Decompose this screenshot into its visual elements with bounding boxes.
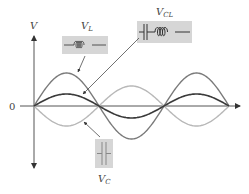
vcl-label: VCL bbox=[156, 6, 174, 19]
vl-pointer-arrow bbox=[78, 56, 85, 72]
capacitor-box bbox=[95, 139, 113, 168]
vc-pointer-arrow bbox=[84, 122, 100, 137]
inductor-box bbox=[62, 36, 108, 54]
zero-label: 0 bbox=[9, 101, 15, 112]
y-axis-label: V bbox=[30, 20, 39, 31]
reactive-voltage-diagram: V 0 VL VCL bbox=[0, 0, 249, 194]
axes: V 0 bbox=[9, 20, 240, 168]
vl-label: VL bbox=[81, 20, 93, 33]
capacitor-inductor-box bbox=[137, 21, 192, 43]
vc-label: VC bbox=[98, 173, 111, 186]
